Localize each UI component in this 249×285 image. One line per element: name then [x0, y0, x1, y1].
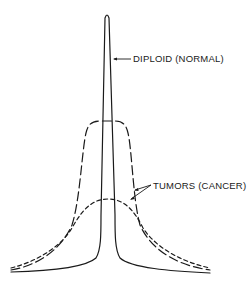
- normal-arrow-icon: [113, 58, 117, 61]
- tumor-broad-curve: [11, 199, 210, 268]
- tumor-plateau-curve: [11, 121, 210, 270]
- distribution-diagram: DIPLOID (NORMAL) TUMORS (CANCER): [0, 0, 249, 285]
- normal-label: DIPLOID (NORMAL): [133, 53, 224, 64]
- tumor-label: TUMORS (CANCER): [153, 180, 246, 191]
- tumor-arrow-icon-1: [134, 188, 139, 191]
